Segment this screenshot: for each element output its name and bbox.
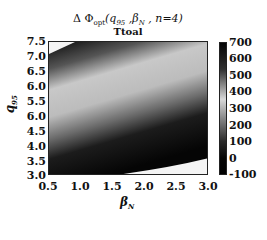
colorbar-tick: 0 bbox=[229, 153, 237, 164]
y-tick: 6.0 bbox=[8, 111, 46, 122]
colorbar-tick: 100 bbox=[229, 136, 252, 147]
x-tick: 1.0 bbox=[65, 180, 95, 193]
colorbar-tick: 500 bbox=[229, 70, 252, 81]
x-tick: 1.5 bbox=[97, 180, 127, 193]
x-axis-label: βN bbox=[120, 195, 134, 211]
colorbar-tick: 300 bbox=[229, 103, 252, 114]
x-tick: 0.5 bbox=[33, 180, 63, 193]
colorbar-tick: -100 bbox=[229, 169, 257, 180]
chart-subtitle: Ttoal bbox=[48, 26, 208, 38]
y-tick: 6.0 bbox=[8, 81, 46, 92]
colorbar-tick: 600 bbox=[229, 53, 252, 64]
colorbar bbox=[219, 42, 227, 175]
y-tick: 7.0 bbox=[8, 51, 46, 62]
x-tick: 2.5 bbox=[161, 180, 191, 193]
y-tick: 4.0 bbox=[8, 141, 46, 152]
y-tick: 7.5 bbox=[8, 36, 46, 47]
x-tick: 2.0 bbox=[129, 180, 159, 193]
y-tick: 3.5 bbox=[8, 156, 46, 167]
colorbar-tick: 700 bbox=[229, 37, 252, 48]
colorbar-tick: 400 bbox=[229, 86, 252, 97]
y-tick: 5.5 bbox=[8, 96, 46, 107]
heatmap-plot-area bbox=[48, 41, 208, 175]
colorbar-tick: 200 bbox=[229, 120, 252, 131]
y-tick: 6.5 bbox=[8, 66, 46, 77]
x-tick: 3.0 bbox=[193, 180, 223, 193]
y-tick: 4.5 bbox=[8, 126, 46, 137]
